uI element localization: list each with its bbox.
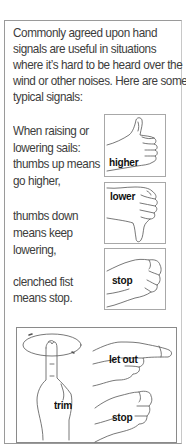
lower-label: lower — [110, 190, 135, 202]
thumbs-up-hand-icon — [105, 115, 167, 178]
intro-line: signals are useful in situations — [13, 41, 156, 57]
intro-line: where it’s hard to be heard over the — [13, 57, 182, 73]
lower-line: thumbs down — [13, 208, 78, 224]
raise-line: thumbs up means — [13, 156, 100, 172]
raise-line: go higher, — [13, 173, 60, 189]
stop-label: stop — [112, 274, 132, 286]
sheet-signals-figure: let out trim stop — [16, 327, 177, 443]
intro-line: wind or other noises. Here are some — [13, 73, 186, 89]
circling-finger-hand-icon — [23, 334, 81, 440]
raise-line: When raising or — [13, 123, 89, 139]
stop-label: stop — [112, 411, 132, 423]
let-out-label: let out — [109, 353, 138, 365]
lower-line: means keep — [13, 225, 73, 241]
higher-signal-figure: higher — [104, 114, 166, 177]
lower-line: lowering, — [13, 242, 56, 258]
stop-line: clenched fist — [13, 274, 73, 290]
lower-signal-figure: lower — [104, 182, 166, 244]
intro-line: Commonly agreed upon hand — [13, 25, 157, 41]
raise-line: lowering sails: — [13, 140, 80, 156]
trim-label: trim — [54, 399, 72, 411]
stop-line: means stop. — [13, 290, 72, 306]
stop-signal-figure: stop — [104, 248, 166, 310]
intro-line: typical signals: — [13, 89, 83, 105]
sheet-signals-illustration — [17, 328, 178, 444]
higher-label: higher — [109, 156, 138, 168]
